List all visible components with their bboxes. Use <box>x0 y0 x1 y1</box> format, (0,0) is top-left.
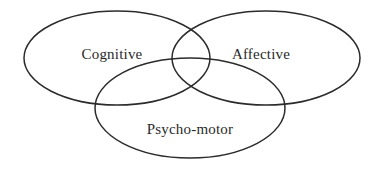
venn-diagram-canvas: Cognitive Affective Psycho-motor <box>0 0 378 176</box>
label-cognitive: Cognitive <box>82 46 143 62</box>
venn-diagram: Cognitive Affective Psycho-motor <box>0 0 378 176</box>
label-affective: Affective <box>232 46 290 62</box>
ellipse-psycho-motor[interactable] <box>95 58 285 158</box>
label-psycho-motor: Psycho-motor <box>147 121 234 137</box>
